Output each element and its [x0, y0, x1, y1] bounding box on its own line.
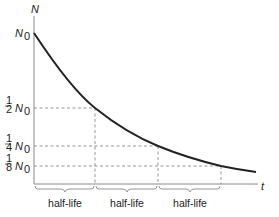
- half-life-diagram: N t N 0 1 2 N 0 1 4 N 0 1 8 N 0 half-lif…: [0, 0, 279, 217]
- decay-curve: [34, 33, 256, 172]
- eighth-n0-label: 1 8 N 0: [5, 152, 30, 175]
- guide-lines: [34, 108, 221, 184]
- half-life-label-1: half-life: [48, 197, 82, 209]
- svg-text:N: N: [15, 140, 23, 152]
- svg-text:N: N: [15, 160, 23, 172]
- svg-text:0: 0: [24, 30, 30, 42]
- half-life-label-2: half-life: [110, 197, 144, 209]
- svg-text:0: 0: [24, 105, 30, 117]
- half-life-braces: [35, 186, 220, 192]
- svg-text:8: 8: [6, 161, 12, 173]
- half-life-label-3: half-life: [173, 197, 207, 209]
- svg-text:N: N: [15, 102, 23, 114]
- half-n0-label: 1 2 N 0: [5, 94, 30, 117]
- x-axis-label: t: [261, 180, 265, 192]
- svg-text:2: 2: [6, 103, 12, 115]
- svg-text:0: 0: [24, 163, 30, 175]
- n0-label: N 0: [15, 27, 30, 42]
- y-axis-label: N: [31, 3, 39, 15]
- svg-text:N: N: [15, 27, 23, 39]
- svg-text:0: 0: [24, 143, 30, 155]
